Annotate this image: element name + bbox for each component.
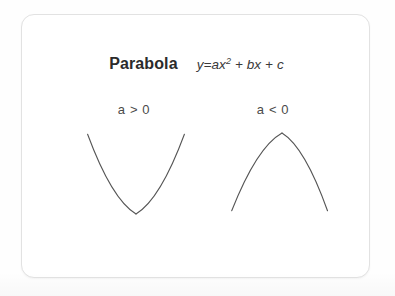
downward-parabola — [232, 133, 328, 211]
upward-parabola-right-branch — [136, 134, 184, 214]
diagram-canvas: Parabolay=ax2 + bx + c a > 0 a < 0 — [0, 0, 395, 296]
upward-parabola-left-branch — [88, 134, 136, 214]
downward-parabola-right-branch — [282, 133, 328, 211]
parabola-curves — [22, 15, 371, 279]
parabola-card: Parabolay=ax2 + bx + c a > 0 a < 0 — [21, 14, 370, 278]
downward-parabola-left-branch — [232, 133, 282, 211]
upward-parabola — [88, 134, 185, 214]
